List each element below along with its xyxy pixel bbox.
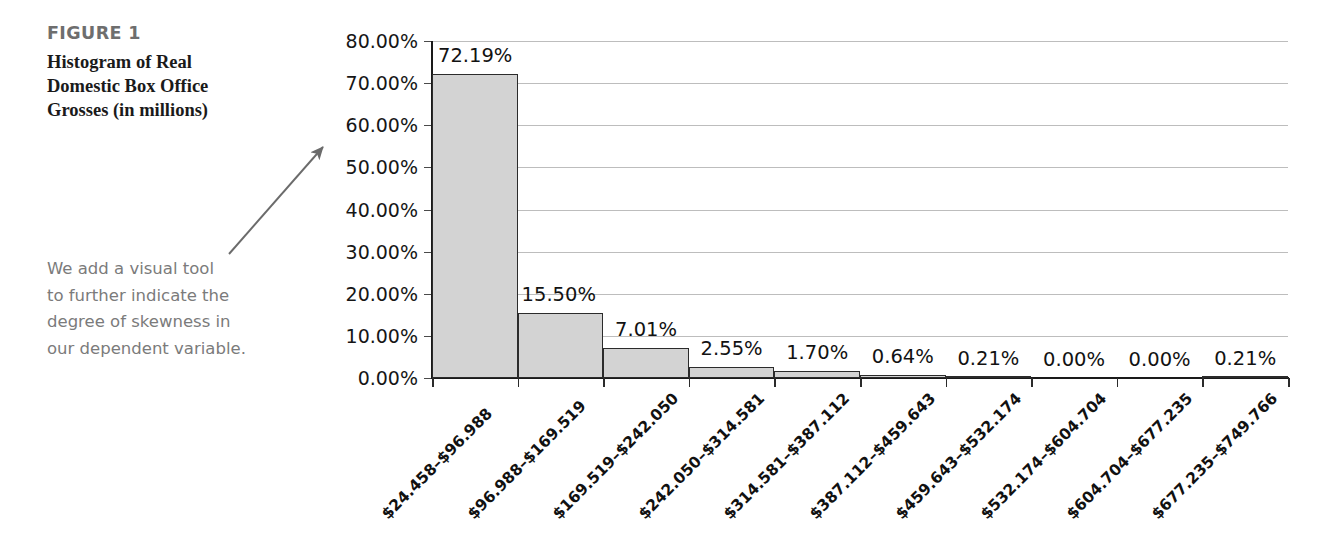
x-tick-mark <box>518 378 520 387</box>
bars-group <box>432 41 1288 378</box>
histogram-bar[interactable] <box>1202 376 1288 378</box>
bar-value-label: 1.70% <box>786 341 848 364</box>
x-tick-mark <box>946 378 948 387</box>
y-axis-tick-label: 50.00% <box>308 156 418 178</box>
histogram-bar[interactable] <box>774 371 860 378</box>
y-axis-tick-label: 10.00% <box>308 325 418 347</box>
bar-value-label: 0.21% <box>957 347 1019 370</box>
bar-value-label: 0.21% <box>1214 347 1276 370</box>
histogram-bar[interactable] <box>603 348 689 378</box>
histogram-bar[interactable] <box>518 313 604 378</box>
y-axis-tick-label: 20.00% <box>308 283 418 305</box>
x-tick-mark <box>603 378 605 387</box>
figure-root: FIGURE 1 Histogram of Real Domestic Box … <box>0 0 1333 560</box>
x-tick-mark <box>1288 378 1290 387</box>
histogram-bar[interactable] <box>946 376 1032 378</box>
bar-value-label: 0.00% <box>1129 348 1191 371</box>
y-axis-tick-label: 30.00% <box>308 241 418 263</box>
bar-value-label: 72.19% <box>438 44 512 67</box>
y-axis-tick-label: 40.00% <box>308 199 418 221</box>
y-axis-tick-label: 80.00% <box>308 30 418 52</box>
x-tick-mark <box>860 378 862 387</box>
y-axis-tick-label: 70.00% <box>308 72 418 94</box>
x-tick-mark <box>1031 378 1033 387</box>
x-tick-mark <box>1202 378 1204 387</box>
histogram-bar[interactable] <box>432 74 518 378</box>
bar-value-label: 15.50% <box>522 283 596 306</box>
x-tick-mark <box>432 378 434 387</box>
bar-value-label: 0.64% <box>872 345 934 368</box>
histogram-bar[interactable] <box>689 367 775 378</box>
bar-value-label: 0.00% <box>1043 348 1105 371</box>
histogram-bar[interactable] <box>860 375 946 378</box>
bar-value-label: 2.55% <box>701 337 763 360</box>
histogram-chart: 80.00%70.00%60.00%50.00%40.00%30.00%20.0… <box>0 0 1333 560</box>
x-tick-mark <box>774 378 776 387</box>
x-tick-mark <box>1117 378 1119 387</box>
bar-value-label: 7.01% <box>615 318 677 341</box>
x-tick-mark <box>689 378 691 387</box>
y-axis-tick-label: 0.00% <box>308 367 418 389</box>
y-axis-tick-label: 60.00% <box>308 114 418 136</box>
